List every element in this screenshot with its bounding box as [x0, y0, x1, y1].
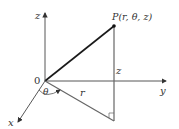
radius-label: r — [80, 87, 86, 98]
point-p — [112, 24, 116, 28]
point-label: P(r, θ, z) — [111, 11, 152, 22]
x-axis — [18, 81, 45, 122]
y-axis-label: y — [159, 85, 166, 96]
x-axis-label: x — [8, 117, 14, 128]
segment-op — [45, 26, 114, 81]
height-label: z — [115, 65, 122, 76]
cylindrical-coordinates-diagram: z y x 0 P(r, θ, z) θ r z — [0, 0, 179, 129]
origin-label: 0 — [34, 75, 40, 86]
right-angle-marker — [109, 113, 114, 118]
theta-label: θ — [43, 87, 49, 97]
z-axis-label: z — [34, 10, 41, 21]
